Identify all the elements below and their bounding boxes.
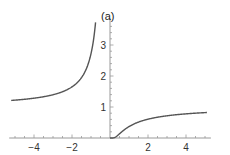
x-tick-label: −2 [66,142,78,153]
curves [11,22,207,138]
x-tick-label: −4 [28,142,40,153]
x-tick-label: 4 [183,142,189,153]
chart: −4−224123 (a) [0,0,230,155]
y-tick-label: 3 [100,40,106,51]
y-tick-label: 2 [100,71,106,82]
axes [9,18,211,138]
left-branch-curve [11,22,95,100]
x-tick-label: 2 [145,142,151,153]
right-branch-curve [110,113,207,138]
y-tick-label: 1 [100,102,106,113]
tick-labels: −4−224123 [28,40,189,154]
panel-label: (a) [101,10,114,22]
